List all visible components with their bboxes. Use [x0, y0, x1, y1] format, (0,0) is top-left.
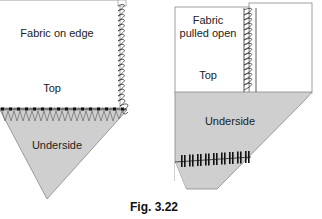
right-top-label: Top	[176, 69, 240, 82]
right-panel-title-line2: pulled open	[176, 27, 240, 40]
right-panel-title-line1: Fabric	[176, 14, 240, 27]
left-underside-label: Underside	[12, 139, 102, 152]
right-underside-fabric	[175, 92, 312, 189]
right-underside-label: Underside	[180, 115, 280, 128]
left-panel-title: Fabric on edge	[2, 27, 112, 40]
right-back-fabric	[249, 3, 312, 93]
left-top-label: Top	[2, 82, 102, 95]
figure-caption: Fig. 3.22	[130, 200, 178, 214]
left-underside-fabric	[0, 110, 127, 199]
